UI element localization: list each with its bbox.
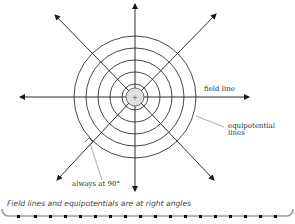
- leader-lines: [90, 116, 224, 180]
- bottom-border: [2, 209, 293, 218]
- right-angle-label: always at 90°: [72, 181, 120, 188]
- right-angle-marker: [85, 138, 93, 146]
- field-line-up-right: [141, 14, 216, 91]
- equipotential-label-line2: lines: [228, 130, 275, 137]
- charge-symbol: +: [132, 94, 138, 102]
- equipotential-label: equipotential lines: [228, 123, 275, 138]
- equipotential-leader: [196, 116, 224, 127]
- field-line-up-left: [55, 15, 129, 91]
- field-line-down-right: [141, 103, 214, 180]
- field-line-label: field line: [204, 86, 235, 93]
- right-angle-leader: [90, 143, 102, 180]
- field-line-down-left: [57, 103, 129, 180]
- field-diagram: +: [0, 0, 295, 224]
- caption: Field lines and equipotentials are at ri…: [7, 199, 191, 208]
